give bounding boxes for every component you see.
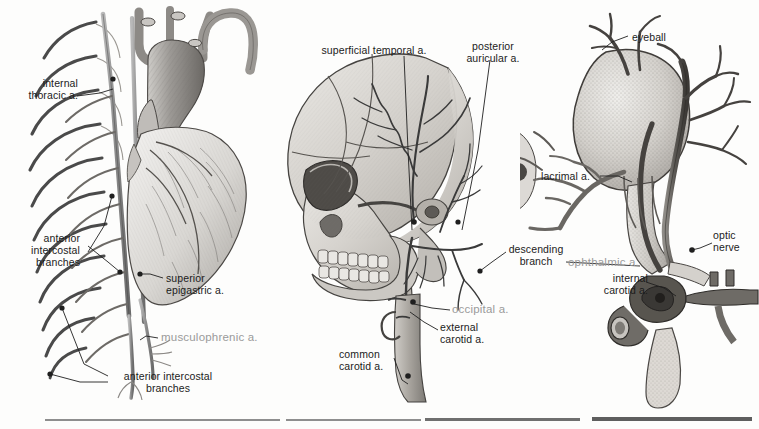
thoracic-arteries-illustration [0,0,262,410]
label-internal-carotid-a: internal carotid a. [586,272,648,296]
anatomy-figure: internal thoracic a. anterior intercosta… [0,0,759,429]
label-internal-thoracic-a: internal thoracic a. [6,77,78,101]
label-external-carotid-a: external carotid a. [440,321,510,345]
orbital-arteries-panel [520,0,759,410]
thoracic-arteries-panel [0,0,262,410]
label-superior-epigastric-a: superior epigastric a. [166,272,256,296]
label-optic-nerve: optic nerve [713,229,755,253]
label-lacrimal-a: lacrimal a. [541,170,603,182]
label-descending-branch: descending branch [506,243,566,267]
bottom-rule-4 [592,417,752,421]
label-superficial-temporal-a: superficial temporal a. [310,44,438,56]
label-eyeball: eyeball [632,31,680,43]
label-ophthalmic-a: ophthalmic a. [568,256,658,268]
bottom-rule-1 [45,419,280,421]
bottom-rule-group [0,411,759,423]
label-anterior-intercostal-branches-lower: anterior intercostal branches [108,370,228,394]
bottom-rule-3 [425,418,580,421]
bottom-rule-2 [286,419,421,421]
label-posterior-auricular-a: posterior auricular a. [456,40,530,64]
label-musculophrenic-a: musculophrenic a. [161,331,271,343]
orbital-arteries-illustration [520,0,759,410]
label-occipital-a: occipital a. [452,303,532,315]
label-anterior-intercostal-branches-upper: anterior intercostal branches [2,232,80,268]
label-common-carotid-a: common carotid a. [339,348,403,372]
